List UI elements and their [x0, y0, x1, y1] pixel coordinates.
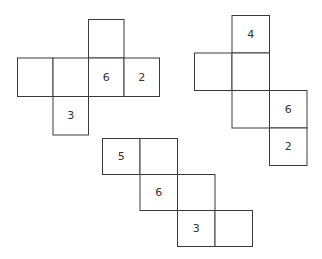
net-face: [232, 53, 270, 91]
face-number: 3: [193, 222, 200, 235]
face-number: 6: [285, 103, 292, 116]
net-face: [18, 58, 54, 97]
net-face: [53, 58, 89, 97]
net-zigzag-vertical: 462: [195, 16, 308, 166]
net-face: [232, 91, 270, 129]
face-number: 5: [118, 150, 125, 163]
net-staircase: 563: [103, 139, 253, 247]
net-face: [178, 175, 216, 211]
net-face: [215, 211, 253, 247]
net-face: [195, 53, 233, 91]
face-number: 3: [67, 109, 74, 122]
cube-nets-diagram: 623462563: [0, 0, 322, 259]
face-number: 4: [247, 28, 254, 41]
face-number: 6: [155, 186, 162, 199]
face-number: 2: [138, 71, 145, 84]
face-number: 6: [103, 71, 110, 84]
net-face: [140, 139, 178, 175]
net-face: [89, 20, 125, 59]
face-number: 2: [285, 140, 292, 153]
net-cross: 623: [18, 20, 160, 136]
